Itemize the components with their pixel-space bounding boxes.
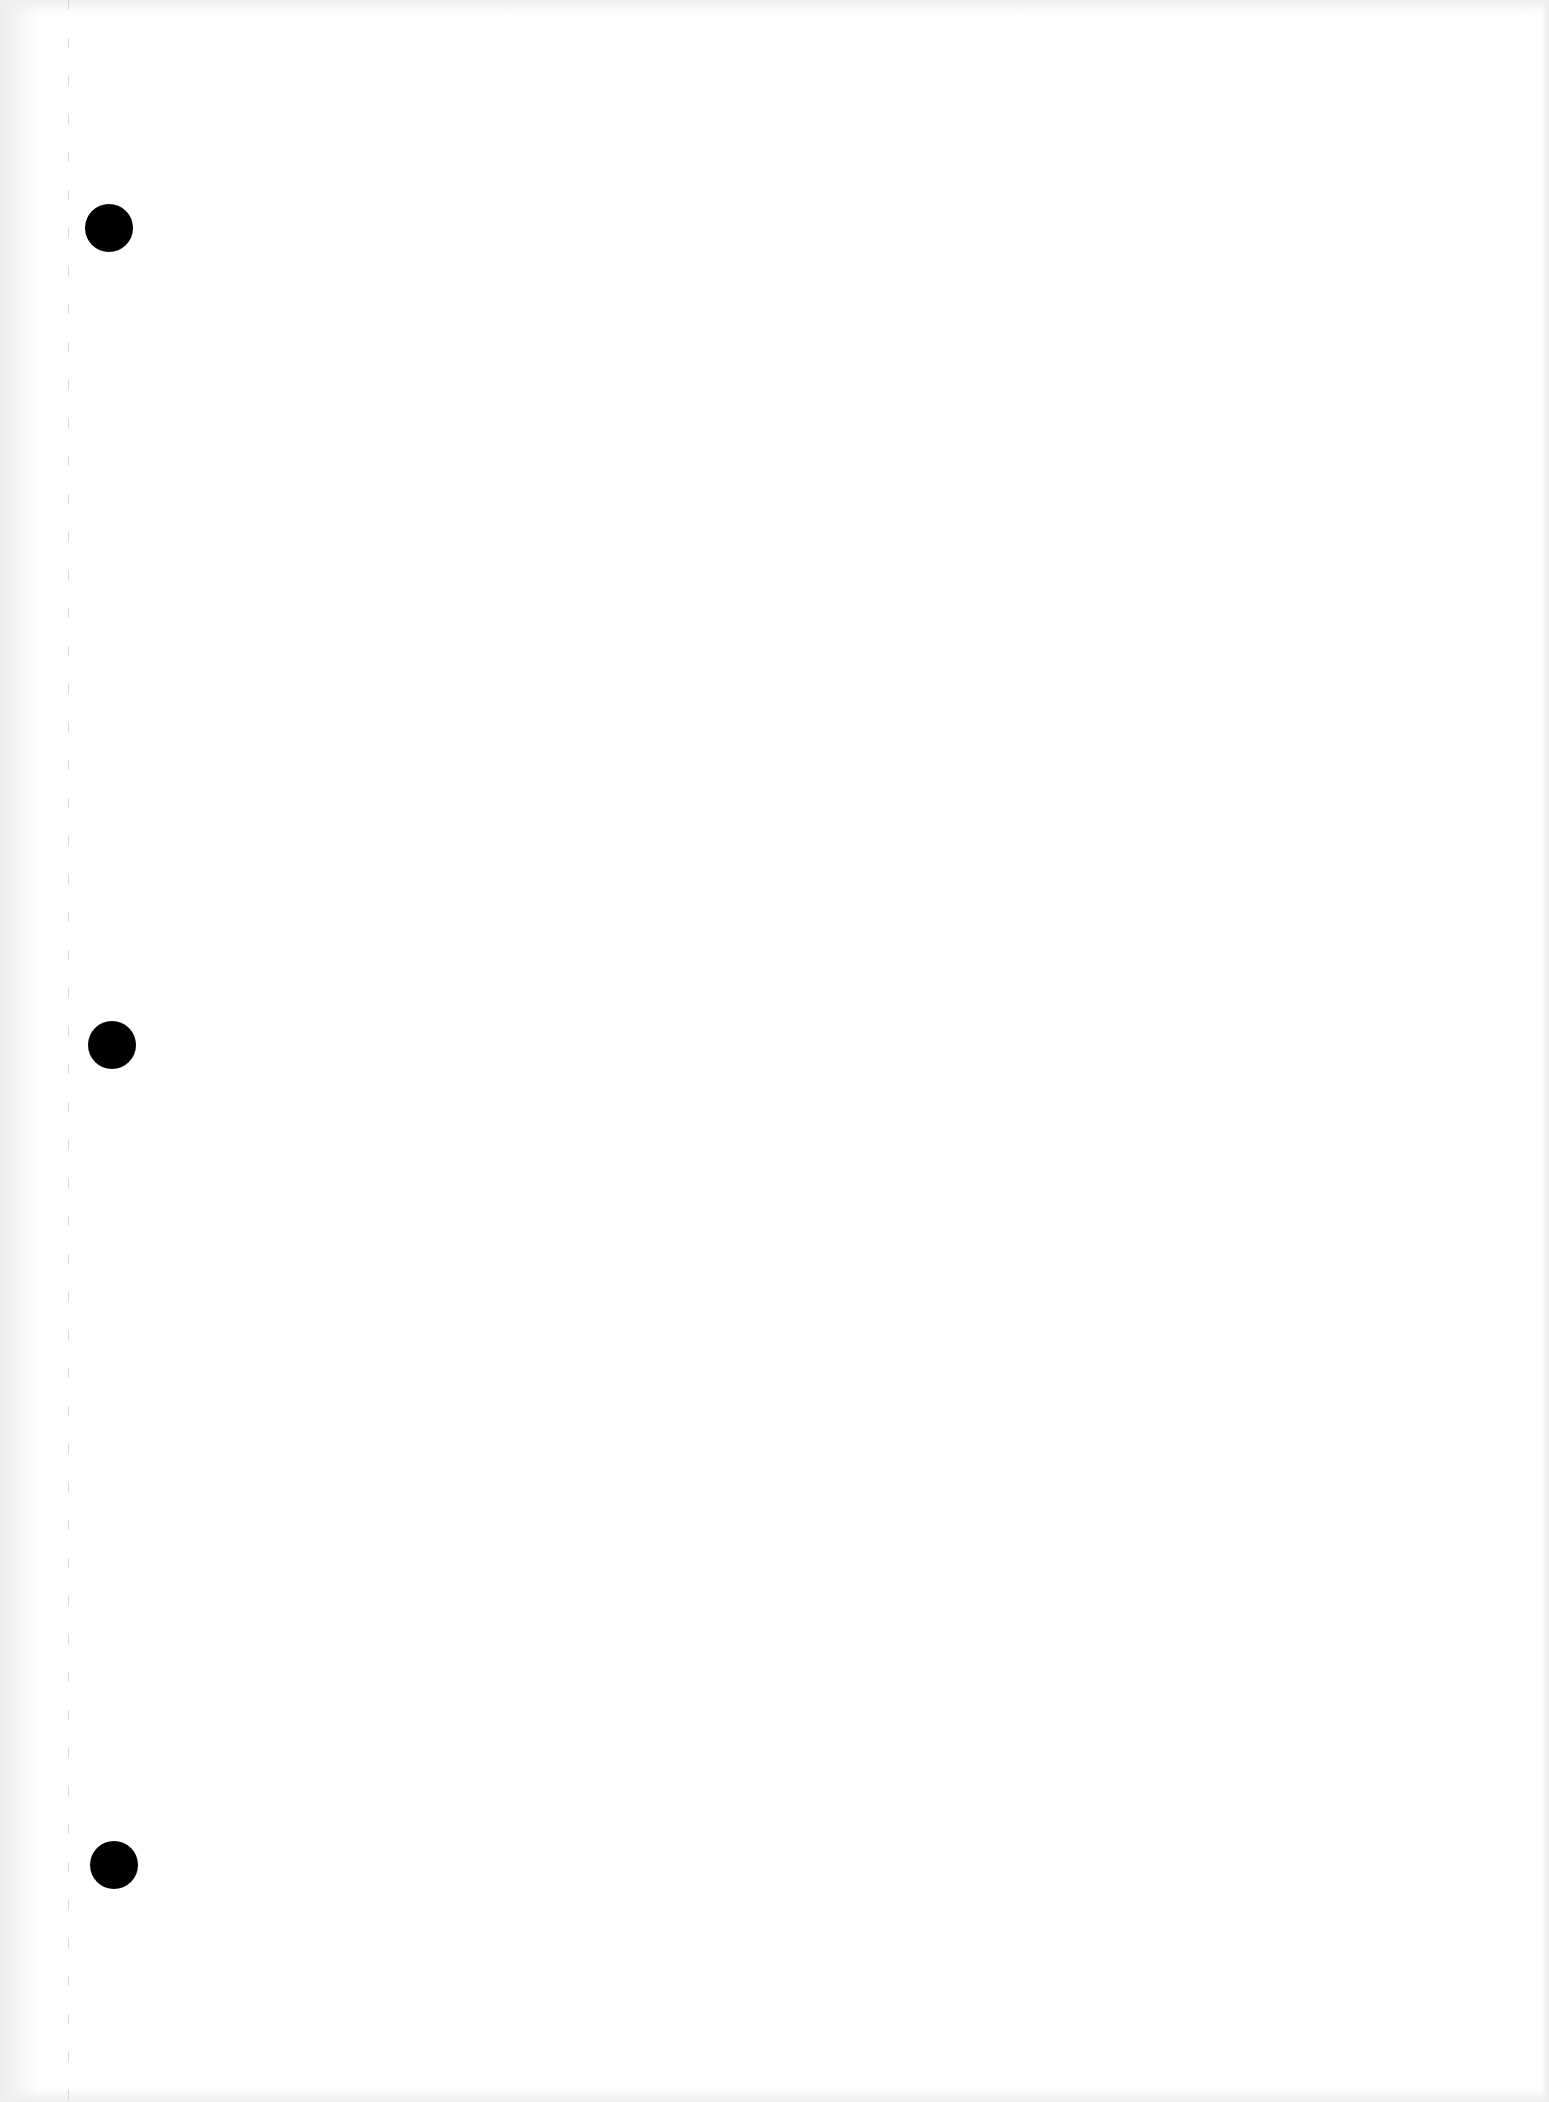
top-edge-shadow — [0, 0, 1549, 14]
right-edge-shadow — [1541, 0, 1549, 2102]
margin-line — [68, 0, 69, 2102]
punch-hole — [88, 1021, 136, 1069]
blank-page — [0, 0, 1549, 2102]
left-edge-shadow — [0, 0, 40, 2102]
punch-hole — [85, 204, 133, 252]
bottom-edge-shadow — [0, 2088, 1549, 2102]
punch-hole — [90, 1841, 138, 1889]
